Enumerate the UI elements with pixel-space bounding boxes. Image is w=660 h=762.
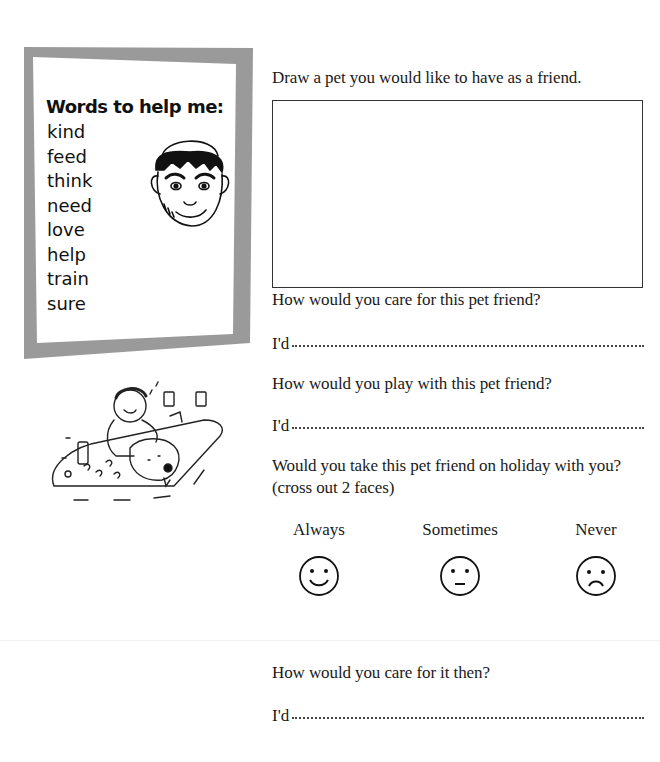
face-option-never[interactable]: Never bbox=[536, 520, 656, 598]
dotted-answer-line[interactable] bbox=[292, 345, 644, 347]
section-divider bbox=[0, 640, 660, 641]
dotted-answer-line[interactable] bbox=[292, 717, 644, 719]
neutral-face-icon[interactable] bbox=[438, 554, 482, 598]
draw-prompt: Draw a pet you would like to have as a f… bbox=[272, 68, 581, 88]
words-heading: Words to help me: bbox=[46, 96, 224, 117]
dog-washing-illustration bbox=[44, 376, 244, 506]
word-item: train bbox=[47, 267, 92, 292]
play-answer-line[interactable]: I'd bbox=[272, 416, 644, 436]
word-item: help bbox=[47, 243, 92, 268]
care-prompt: How would you care for this pet friend? bbox=[272, 290, 541, 310]
face-label: Always bbox=[259, 520, 379, 540]
word-item: feed bbox=[47, 145, 92, 170]
word-item: need bbox=[47, 194, 92, 219]
then-answer-line[interactable]: I'd bbox=[272, 706, 644, 726]
word-item: sure bbox=[47, 292, 92, 317]
drawing-area[interactable] bbox=[272, 100, 643, 288]
then-prompt: How would you care for it then? bbox=[272, 663, 490, 683]
play-prompt: How would you play with this pet friend? bbox=[272, 374, 552, 394]
word-list: kind feed think need love help train sur… bbox=[47, 120, 92, 316]
holiday-instruction: (cross out 2 faces) bbox=[272, 478, 394, 498]
dotted-answer-line[interactable] bbox=[292, 427, 644, 429]
care-answer-line[interactable]: I'd bbox=[272, 334, 644, 354]
happy-face-icon[interactable] bbox=[297, 554, 341, 598]
face-option-always[interactable]: Always bbox=[259, 520, 379, 598]
face-option-sometimes[interactable]: Sometimes bbox=[400, 520, 520, 598]
answer-lead: I'd bbox=[272, 706, 289, 726]
holiday-prompt: Would you take this pet friend on holida… bbox=[272, 456, 621, 476]
word-item: think bbox=[47, 169, 92, 194]
word-item: kind bbox=[47, 120, 92, 145]
face-label: Sometimes bbox=[400, 520, 520, 540]
face-label: Never bbox=[536, 520, 656, 540]
answer-lead: I'd bbox=[272, 334, 289, 354]
word-item: love bbox=[47, 218, 92, 243]
answer-lead: I'd bbox=[272, 416, 289, 436]
boy-face-illustration bbox=[144, 128, 236, 233]
sad-face-icon[interactable] bbox=[574, 554, 618, 598]
